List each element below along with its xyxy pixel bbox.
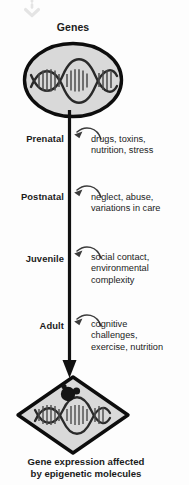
annotation-line: complexity	[91, 275, 189, 286]
annotation-prenatal: drugs, toxins, nutrition, stress	[91, 134, 189, 157]
stage-label-adult: Adult	[0, 320, 64, 331]
top-dotted-arrow	[0, 0, 189, 20]
annotation-line: variations in care	[91, 203, 189, 214]
genes-title: Genes	[0, 21, 146, 33]
annotation-line: cognitive	[91, 319, 189, 330]
genes-node	[21, 40, 125, 120]
annotation-line: exercise, nutrition	[91, 342, 189, 353]
outcome-node	[15, 374, 131, 456]
curved-arrowhead-icon	[74, 251, 82, 258]
annotation-line: neglect, abuse,	[91, 192, 189, 203]
chevron-down-icon	[26, 10, 39, 16]
caption-line: by epigenetic molecules	[0, 468, 172, 480]
curved-arrowhead-icon	[74, 132, 82, 139]
annotation-line: environmental	[91, 263, 189, 274]
stage-label-postnatal: Postnatal	[0, 191, 64, 202]
annotation-line: nutrition, stress	[91, 145, 189, 156]
annotation-line: challenges,	[91, 330, 189, 341]
diagram-caption: Gene expression affected by epigenetic m…	[0, 456, 172, 480]
outcome-diamond	[18, 377, 128, 453]
annotation-adult: cognitive challenges, exercise, nutritio…	[91, 319, 189, 353]
annotation-line: drugs, toxins,	[91, 134, 189, 145]
curved-arrowhead-icon	[74, 190, 82, 197]
stage-label-juvenile: Juvenile	[0, 253, 64, 264]
annotation-line: social contact,	[91, 252, 189, 263]
annotation-postnatal: neglect, abuse, variations in care	[91, 192, 189, 215]
annotation-juvenile: social contact, environmental complexity	[91, 252, 189, 286]
curved-arrowhead-icon	[74, 319, 82, 326]
caption-line: Gene expression affected	[0, 456, 172, 468]
stage-label-prenatal: Prenatal	[0, 133, 64, 144]
